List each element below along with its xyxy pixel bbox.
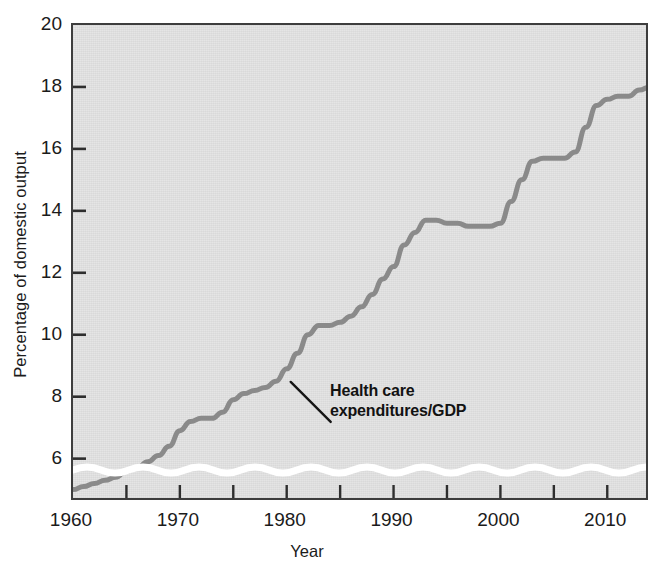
annotation-leader-line [291,382,331,422]
series-annotation: Health care expenditures/GDP [330,381,466,422]
plot-svg [73,25,648,500]
y-tick-label-16: 16 [18,138,62,157]
x-axis-ticks [126,485,607,500]
x-tick-label-1960: 1960 [50,510,92,529]
data-line-health-care-expenditures [73,87,648,490]
x-tick-label-1970: 1970 [157,510,199,529]
x-tick-label-2000: 2000 [477,510,519,529]
x-tick-label-1980: 1980 [264,510,306,529]
annotation-line-2: expenditures/GDP [330,401,466,421]
y-axis-tick-labels: 68101214161820 [12,0,62,567]
y-tick-label-10: 10 [18,324,62,343]
axis-break-wave [73,467,648,473]
x-axis-title-text: Year [290,542,323,561]
plot-area [71,23,648,500]
y-tick-label-8: 8 [18,386,62,405]
y-axis-ticks [73,87,86,459]
x-axis-tick-labels: 196019701980199020002010 [0,510,666,540]
y-tick-label-20: 20 [18,14,62,33]
x-tick-label-2010: 2010 [584,510,626,529]
y-tick-label-14: 14 [18,200,62,219]
x-tick-label-1990: 1990 [370,510,412,529]
chart-figure: Percentage of domestic output 6810121416… [0,0,666,567]
x-axis-title: Year [0,542,666,561]
y-tick-label-12: 12 [18,262,62,281]
y-tick-label-6: 6 [18,448,62,467]
annotation-line-1: Health care [330,381,466,401]
y-tick-label-18: 18 [18,76,62,95]
